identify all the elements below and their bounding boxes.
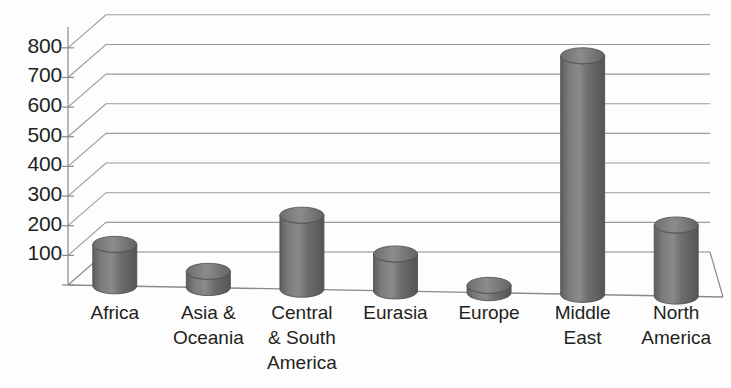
bar	[93, 236, 137, 294]
gridline	[68, 15, 710, 48]
gridline	[68, 133, 710, 166]
y-axis-tick-label: 700	[0, 63, 62, 87]
y-axis-tick-label: 300	[0, 182, 62, 206]
bar-top-cap	[186, 263, 230, 279]
bar	[280, 207, 324, 297]
y-axis-tick-label: 400	[0, 152, 62, 176]
bar	[467, 277, 511, 300]
bar-top-cap	[467, 277, 511, 293]
y-axis-tick-label: 600	[0, 93, 62, 117]
bar	[561, 48, 605, 303]
bar-top-cap	[93, 236, 137, 252]
bar-body	[654, 225, 698, 304]
gridline	[68, 163, 710, 196]
y-axis-tick-label: 200	[0, 212, 62, 236]
bar-body	[561, 56, 605, 303]
bar-top-cap	[654, 217, 698, 233]
x-axis-category-label: North America	[621, 300, 731, 350]
y-axis-tick-label: 500	[0, 123, 62, 147]
gridline	[68, 193, 710, 226]
bar-body	[280, 215, 324, 297]
gridline	[68, 74, 710, 107]
bar	[654, 217, 698, 304]
bar-chart: 100200300400500600700800 AfricaAsia & Oc…	[0, 0, 731, 388]
bar-top-cap	[280, 207, 324, 223]
floor-right-edge	[710, 252, 723, 297]
bar-series	[93, 48, 698, 304]
gridline	[68, 104, 710, 137]
gridline	[68, 44, 710, 77]
y-axis-tick-label: 100	[0, 241, 62, 265]
y-axis-tick-label: 800	[0, 34, 62, 58]
bar	[186, 263, 230, 295]
bar	[374, 246, 418, 299]
bar-top-cap	[374, 246, 418, 262]
bar-top-cap	[561, 48, 605, 64]
gridlines	[68, 15, 710, 256]
